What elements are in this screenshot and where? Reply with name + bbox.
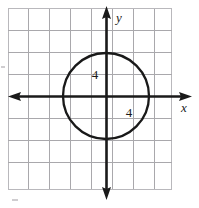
radius-label-vertical: 4: [92, 67, 99, 82]
x-axis: [8, 92, 192, 101]
coordinate-plot: y x 4 4: [0, 0, 199, 208]
radius-label-horizontal: 4: [126, 105, 133, 120]
figure-canvas: y x 4 4: [0, 0, 199, 208]
scan-speck-left: [1, 66, 5, 68]
grid-horizontal-lines: [8, 9, 172, 190]
scan-speck-bottom: [12, 199, 18, 201]
y-axis-label: y: [114, 10, 122, 25]
x-axis-label: x: [180, 100, 187, 115]
y-axis: [102, 6, 111, 200]
